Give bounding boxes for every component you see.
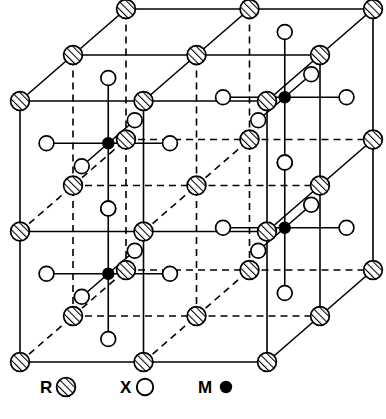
x-atom bbox=[101, 332, 116, 347]
r-atom bbox=[117, 130, 136, 149]
r-atom bbox=[240, 130, 259, 149]
hatched-circle-icon bbox=[55, 376, 77, 398]
r-atom bbox=[11, 353, 30, 372]
r-atom bbox=[364, 130, 383, 149]
legend-label-r: R bbox=[40, 379, 52, 396]
r-atom bbox=[258, 222, 277, 241]
x-atom bbox=[304, 67, 319, 82]
legend-item-m: M bbox=[198, 376, 237, 398]
x-atom bbox=[304, 197, 319, 212]
m-atom bbox=[279, 222, 290, 233]
x-atom bbox=[127, 243, 142, 258]
x-atom bbox=[127, 113, 142, 128]
x-atom bbox=[39, 266, 54, 281]
r-atom bbox=[258, 353, 277, 372]
x-atom bbox=[74, 289, 89, 304]
r-atom bbox=[240, 261, 259, 280]
r-atom bbox=[240, 0, 259, 18]
r-atom bbox=[187, 46, 206, 65]
r-atoms bbox=[11, 0, 383, 371]
legend-item-x: X bbox=[120, 376, 156, 398]
r-atom bbox=[258, 92, 277, 111]
x-atom bbox=[39, 136, 54, 151]
x-atom bbox=[101, 201, 116, 216]
filled-circle-icon bbox=[215, 376, 237, 398]
r-atom bbox=[364, 261, 383, 280]
r-atom bbox=[134, 92, 153, 111]
x-atom bbox=[277, 155, 292, 170]
x-atom bbox=[216, 90, 231, 105]
m-atom bbox=[279, 92, 290, 103]
r-atom bbox=[311, 46, 330, 65]
x-atom bbox=[277, 25, 292, 40]
open-circle-icon bbox=[134, 376, 156, 398]
r-atom bbox=[187, 307, 206, 326]
legend-item-r: R bbox=[40, 376, 77, 398]
legend-label-m: M bbox=[198, 379, 212, 396]
r-atom bbox=[117, 261, 136, 280]
x-atom bbox=[277, 286, 292, 301]
x-atom bbox=[74, 159, 89, 174]
legend: R X M bbox=[0, 372, 386, 402]
crystal-structure-figure bbox=[0, 0, 386, 419]
x-atom bbox=[163, 136, 178, 151]
r-atom bbox=[64, 46, 83, 65]
m-atom bbox=[103, 138, 114, 149]
r-atom bbox=[11, 222, 30, 241]
x-atom bbox=[339, 90, 354, 105]
x-atom bbox=[101, 71, 116, 86]
figure-caption bbox=[0, 408, 386, 419]
m-atom bbox=[103, 268, 114, 279]
r-atom bbox=[117, 0, 136, 18]
r-atom bbox=[187, 176, 206, 195]
r-atom bbox=[64, 307, 83, 326]
x-atom bbox=[163, 266, 178, 281]
x-atom bbox=[216, 220, 231, 235]
x-atom bbox=[339, 220, 354, 235]
x-atom bbox=[251, 113, 266, 128]
r-atom bbox=[134, 353, 153, 372]
x-atom bbox=[251, 243, 266, 258]
r-atom bbox=[311, 176, 330, 195]
r-atom bbox=[134, 222, 153, 241]
r-atom bbox=[11, 92, 30, 111]
r-atom bbox=[311, 307, 330, 326]
r-atom bbox=[64, 176, 83, 195]
r-atom bbox=[364, 0, 383, 18]
legend-label-x: X bbox=[120, 379, 131, 396]
